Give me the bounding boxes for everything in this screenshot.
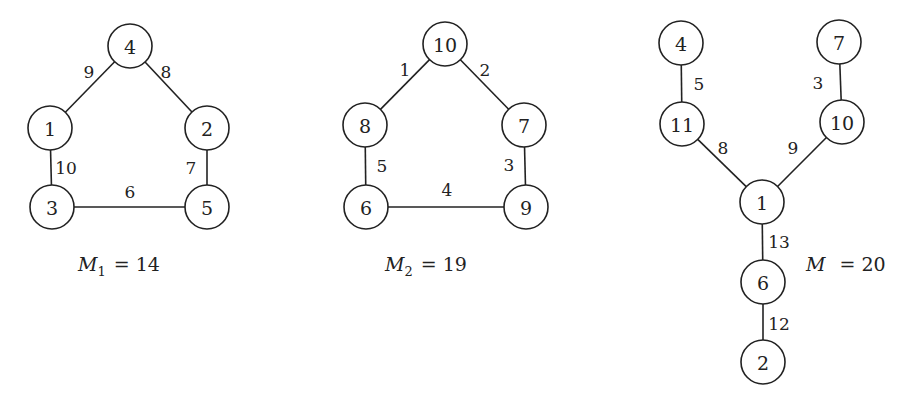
edge-weight-label: 9 <box>788 138 799 158</box>
graph-node: 7 <box>502 103 546 147</box>
graph-node: 1 <box>28 106 72 150</box>
edge-weight-label: 6 <box>125 182 136 202</box>
caption-equals: = 20 <box>839 253 885 275</box>
graph-g3: 53891312471110162M= 20 <box>659 20 886 384</box>
caption-symbol: M <box>77 253 98 275</box>
graph-edge <box>51 150 52 185</box>
edge-weight-label: 12 <box>768 314 790 334</box>
edge-weight-label: 3 <box>504 155 515 175</box>
caption-symbol: M <box>384 253 405 275</box>
graph-g1: 98107641235M1= 14 <box>28 24 229 279</box>
graph-diagram-canvas: 98107641235M1= 1412534108769M2= 19538913… <box>0 0 920 407</box>
edge-weight-label: 7 <box>186 158 197 178</box>
graph-caption: M2= 19 <box>384 253 467 279</box>
graph-node: 2 <box>185 106 229 150</box>
node-label: 2 <box>201 118 213 140</box>
graph-edge <box>840 64 841 100</box>
node-label: 9 <box>520 197 532 219</box>
edge-weight-label: 9 <box>84 62 95 82</box>
node-label: 1 <box>44 118 56 140</box>
graph-node: 6 <box>344 185 388 229</box>
node-label: 5 <box>201 197 213 219</box>
edge-weight-label: 1 <box>400 60 411 80</box>
graph-edge <box>525 147 526 185</box>
graph-node: 7 <box>817 20 861 64</box>
graph-caption: M= 20 <box>805 253 886 275</box>
caption-equals: = 14 <box>114 253 160 275</box>
graph-caption: M1= 14 <box>77 253 160 279</box>
graph-g2: 12534108769M2= 19 <box>343 22 548 279</box>
graph-node: 5 <box>185 185 229 229</box>
caption-equals: = 19 <box>421 253 467 275</box>
graph-node: 6 <box>741 260 785 304</box>
graph-node: 10 <box>820 100 864 144</box>
edge-weight-label: 10 <box>55 158 77 178</box>
graph-node: 3 <box>30 185 74 229</box>
weighted-graphs-diagram: 98107641235M1= 1412534108769M2= 19538913… <box>0 0 920 407</box>
node-label: 6 <box>757 272 769 294</box>
node-label: 1 <box>756 192 768 214</box>
graph-node: 8 <box>343 103 387 147</box>
graph-node: 4 <box>659 21 703 65</box>
edge-weight-label: 5 <box>694 74 705 94</box>
node-label: 10 <box>433 34 457 56</box>
graph-node: 1 <box>740 180 784 224</box>
node-label: 8 <box>359 115 371 137</box>
graph-node: 9 <box>504 185 548 229</box>
node-label: 7 <box>518 115 530 137</box>
node-label: 10 <box>830 112 854 134</box>
graph-node: 4 <box>108 24 152 68</box>
caption-subscript: 1 <box>97 264 105 279</box>
edge-weight-label: 8 <box>161 62 172 82</box>
node-label: 4 <box>124 36 136 58</box>
edge-weight-label: 5 <box>377 156 388 176</box>
caption-symbol: M <box>805 253 826 275</box>
edge-weight-label: 3 <box>813 73 824 93</box>
node-label: 7 <box>833 32 845 54</box>
edge-weight-label: 2 <box>480 60 491 80</box>
edge-weight-label: 13 <box>768 232 790 252</box>
node-label: 3 <box>46 197 58 219</box>
edge-weight-label: 8 <box>718 138 729 158</box>
caption-subscript: 2 <box>404 264 412 279</box>
node-label: 11 <box>670 114 694 136</box>
edge-weight-label: 4 <box>442 180 453 200</box>
graph-node: 10 <box>423 22 467 66</box>
node-label: 2 <box>757 352 769 374</box>
graph-node: 11 <box>660 102 704 146</box>
graph-edge <box>778 138 827 187</box>
node-label: 4 <box>675 33 687 55</box>
graph-node: 2 <box>741 340 785 384</box>
node-label: 6 <box>360 197 372 219</box>
